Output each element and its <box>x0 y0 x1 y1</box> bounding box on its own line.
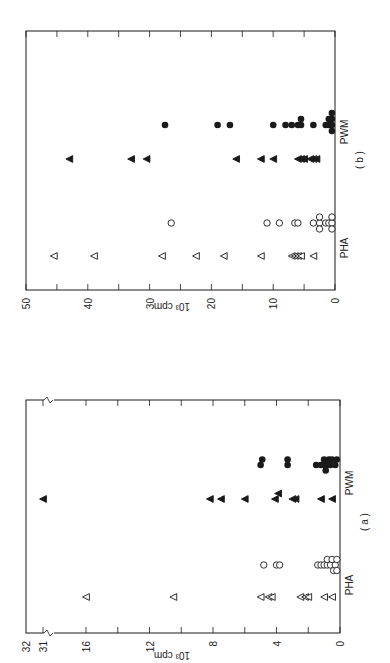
filled-circle-marker <box>334 456 341 463</box>
open-circle-marker <box>329 214 335 220</box>
panel-b-ylabel: 10³ cpm <box>154 301 190 312</box>
filled-circle-marker <box>329 116 336 123</box>
open-triangle-marker <box>193 253 200 260</box>
panel-a-ticks: 04812163132 <box>21 397 346 652</box>
filled-circle-marker <box>214 122 221 129</box>
filled-circle-marker <box>298 122 305 129</box>
panel-a-category-pwm: PWM <box>344 471 355 495</box>
filled-triangle-marker <box>270 156 277 163</box>
panel-a-tick-label: 8 <box>208 641 219 647</box>
panel-a-tick-label: 32 <box>21 641 32 653</box>
panel-b-tick-label: 10 <box>268 298 279 310</box>
filled-triangle-marker <box>241 496 248 503</box>
filled-circle-marker <box>162 122 169 129</box>
panel-a-tick-label: 16 <box>81 641 92 653</box>
filled-circle-marker <box>329 122 336 129</box>
filled-triangle-marker <box>233 156 240 163</box>
filled-triangle-marker <box>257 156 264 163</box>
open-circle-marker <box>276 220 282 226</box>
open-circle-marker <box>316 214 322 220</box>
filled-circle-marker <box>288 122 295 129</box>
open-circle-marker <box>334 556 340 562</box>
open-triangle-marker <box>170 594 177 601</box>
panel-a-tick-label: 31 <box>38 641 49 653</box>
filled-circle-marker <box>298 116 305 123</box>
panel-b-tick-label: 0 <box>330 298 341 304</box>
figure: 01020304050 10³ cpm PHA PWM ( b ) 048121… <box>0 0 390 663</box>
open-triangle-marker <box>310 253 317 260</box>
filled-triangle-marker <box>329 496 336 503</box>
filled-triangle-marker <box>66 156 73 163</box>
panel-b-tick-label: 40 <box>83 298 94 310</box>
open-triangle-marker <box>91 253 98 260</box>
open-circle-marker <box>168 220 174 226</box>
panel-a-label: ( a ) <box>359 513 370 531</box>
panel-b-category-pwm: PWM <box>339 120 350 144</box>
filled-circle-marker <box>270 122 277 129</box>
panel-b-category-pha: PHA <box>339 237 350 258</box>
panel-a-category-pha: PHA <box>344 574 355 595</box>
filled-triangle-marker <box>40 496 47 503</box>
panel-a-tick-label: 0 <box>335 641 346 647</box>
filled-triangle-marker <box>218 496 225 503</box>
filled-triangle-marker <box>143 156 150 163</box>
open-triangle-marker <box>257 594 264 601</box>
panel-b-ticks: 01020304050 <box>21 31 341 309</box>
open-circle-marker <box>316 226 322 232</box>
panel-a-tick-label: 4 <box>272 641 283 647</box>
open-triangle-marker <box>329 594 336 601</box>
open-circle-marker <box>316 220 322 226</box>
open-triangle-marker <box>83 594 90 601</box>
panel-b: 01020304050 10³ cpm PHA PWM ( b ) <box>21 31 365 312</box>
open-circle-marker <box>329 220 335 226</box>
filled-circle-marker <box>282 122 289 129</box>
open-triangle-marker <box>220 253 227 260</box>
open-circle-marker <box>295 220 301 226</box>
filled-circle-marker <box>259 456 266 463</box>
filled-triangle-marker <box>128 156 135 163</box>
filled-circle-marker <box>284 456 291 463</box>
open-circle-marker <box>310 220 316 226</box>
open-circle-marker <box>261 562 267 568</box>
filled-triangle-marker <box>272 496 279 503</box>
open-circle-marker <box>334 567 340 573</box>
open-triangle-marker <box>159 253 166 260</box>
panel-a-tick-label: 12 <box>145 641 156 653</box>
panel-a-frame <box>26 400 340 633</box>
panel-a-points <box>40 456 341 600</box>
panel-b-label: ( b ) <box>354 151 365 169</box>
filled-circle-marker <box>227 122 234 129</box>
filled-circle-marker <box>329 128 336 135</box>
panel-b-tick-label: 50 <box>21 298 32 310</box>
filled-triangle-marker <box>206 496 213 503</box>
open-triangle-marker <box>321 594 328 601</box>
open-circle-marker <box>264 220 270 226</box>
open-triangle-marker <box>50 253 57 260</box>
open-circle-marker <box>276 562 282 568</box>
filled-circle-marker <box>329 110 336 117</box>
open-triangle-marker <box>257 253 264 260</box>
panel-b-tick-label: 20 <box>206 298 217 310</box>
panel-a: 04812163132 10³ cpm PHA PWM ( a ) <box>21 397 370 661</box>
filled-triangle-marker <box>318 496 325 503</box>
panel-b-points <box>50 110 335 260</box>
filled-circle-marker <box>310 122 317 129</box>
open-circle-marker <box>329 226 335 232</box>
panel-a-ylabel: 10³ cpm <box>154 650 190 661</box>
